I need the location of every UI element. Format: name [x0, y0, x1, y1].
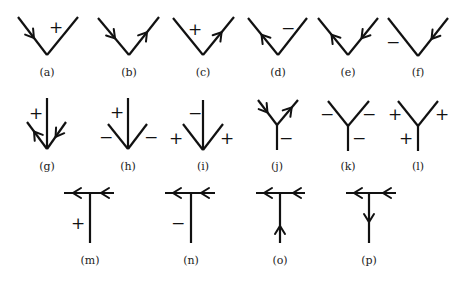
figure-caption: (a) — [39, 66, 54, 79]
plus-label: + — [49, 17, 63, 37]
minus-label: − — [352, 128, 366, 148]
right-edge — [277, 100, 298, 125]
figure-c: +(c) — [173, 17, 234, 79]
figure-caption: (k) — [340, 160, 355, 173]
left-edge — [98, 18, 129, 55]
figure-caption: (n) — [183, 254, 199, 267]
figure-k: −−−(k) — [320, 101, 376, 173]
plus-label: + — [71, 213, 85, 233]
figure-caption: (i) — [197, 160, 209, 173]
minus-label: − — [144, 127, 158, 147]
figure-h: +−−(h) — [99, 98, 158, 173]
minus-label: − — [281, 18, 295, 38]
right-edge — [348, 18, 378, 55]
figure-j: −(j) — [258, 100, 298, 173]
right-edge — [203, 17, 234, 55]
figure-caption: (c) — [196, 66, 211, 79]
minus-label: − — [171, 213, 185, 233]
figure-i: −++(i) — [169, 100, 234, 173]
figure-caption: (l) — [412, 160, 424, 173]
figure-caption: (d) — [270, 66, 286, 79]
figure-d: −(d) — [248, 18, 307, 79]
figure-n: −(n) — [165, 188, 215, 267]
plus-label: + — [435, 104, 449, 124]
minus-label: − — [99, 127, 113, 147]
junction-label-diagram: +(a)(b)+(c)−(d)(e)−(f)+(g)+−−(h)−++(i)−(… — [0, 0, 468, 281]
figure-l: +++(l) — [388, 101, 449, 173]
left-edge — [18, 17, 47, 55]
figure-m: +(m) — [64, 188, 114, 267]
plus-label: + — [169, 128, 183, 148]
minus-label: − — [188, 103, 202, 123]
figure-o: (o) — [256, 188, 305, 267]
minus-label: − — [386, 32, 400, 52]
figure-caption: (e) — [340, 66, 355, 79]
figure-caption: (m) — [80, 254, 99, 267]
plus-label: + — [110, 102, 124, 122]
figure-caption: (j) — [271, 160, 283, 173]
figure-caption: (h) — [120, 160, 136, 173]
figure-caption: (p) — [361, 254, 377, 267]
figure-a: +(a) — [18, 17, 78, 79]
right-edge — [418, 18, 448, 56]
left-edge — [318, 18, 348, 55]
minus-label: − — [362, 104, 376, 124]
figure-caption: (b) — [121, 66, 137, 79]
left-edge — [183, 124, 203, 150]
figure-b: (b) — [98, 17, 159, 79]
minus-label: − — [279, 128, 293, 148]
figure-caption: (g) — [39, 160, 55, 173]
plus-label: + — [399, 128, 413, 148]
plus-label: + — [220, 128, 234, 148]
figure-p: (p) — [346, 188, 396, 267]
plus-label: + — [388, 104, 402, 124]
figure-e: (e) — [318, 18, 378, 79]
figure-f: −(f) — [386, 18, 448, 79]
plus-label: + — [188, 19, 202, 39]
left-edge — [27, 122, 47, 149]
plus-label: + — [29, 103, 43, 123]
left-edge — [248, 18, 278, 55]
figure-g: +(g) — [27, 98, 66, 173]
minus-label: − — [320, 104, 334, 124]
figure-caption: (f) — [412, 66, 425, 79]
right-edge — [129, 17, 159, 55]
figure-caption: (o) — [272, 254, 287, 267]
